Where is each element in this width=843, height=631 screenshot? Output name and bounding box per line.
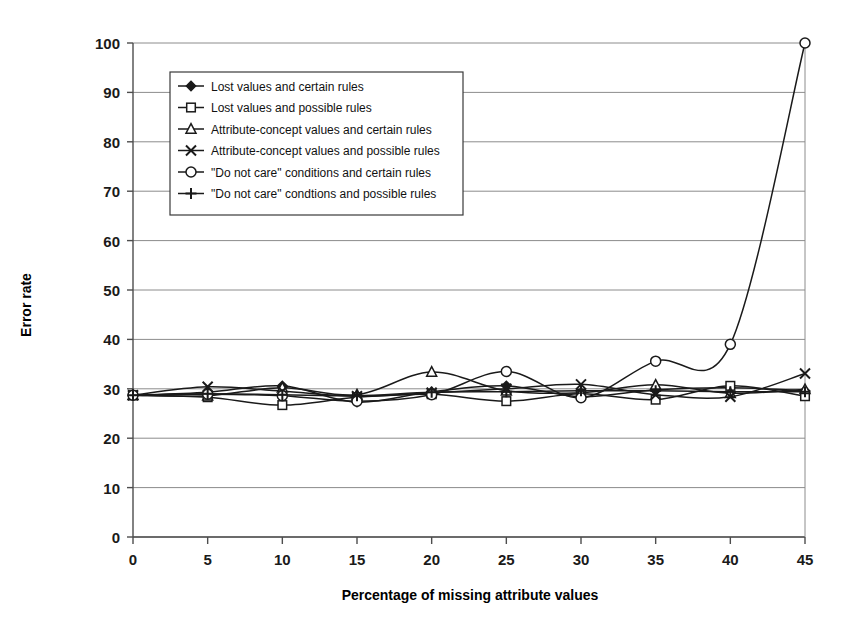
legend-label: Attribute-concept values and possible ru… — [211, 144, 440, 158]
legend-item-3[interactable]: Attribute-concept values and possible ru… — [178, 144, 440, 158]
y-axis-tick-label: 60 — [103, 233, 120, 250]
data-point-marker-open-square — [278, 401, 287, 410]
legend-item-4[interactable]: "Do not care" conditions and certain rul… — [178, 166, 431, 180]
y-axis-tick-label: 40 — [103, 331, 120, 348]
chart-figure: 0102030405060708090100 05101520253035404… — [0, 0, 843, 631]
y-axis-tick-label: 20 — [103, 430, 120, 447]
x-axis-tick-label: 0 — [129, 551, 137, 568]
legend-item-2[interactable]: Attribute-concept values and certain rul… — [178, 123, 432, 137]
y-axis-tick-label: 10 — [103, 480, 120, 497]
x-axis-tick-label: 40 — [722, 551, 739, 568]
legend-label: Attribute-concept values and certain rul… — [211, 123, 432, 137]
legend-label: "Do not care" conditions and certain rul… — [211, 166, 431, 180]
data-point-marker-open-circle — [651, 356, 661, 366]
x-axis-title: Percentage of missing attribute values — [342, 587, 599, 603]
y-axis-tick-label: 30 — [103, 381, 120, 398]
error-rate-line-chart: 0102030405060708090100 05101520253035404… — [0, 0, 843, 631]
x-axis-tick-label: 35 — [647, 551, 664, 568]
y-axis-title: Error rate — [18, 273, 34, 337]
x-axis-tick-label: 10 — [274, 551, 291, 568]
x-axis-tick-label: 15 — [349, 551, 366, 568]
legend-label: Lost values and certain rules — [211, 80, 364, 94]
legend-item-5[interactable]: "Do not care" condtions and possible rul… — [178, 187, 436, 201]
x-axis-tick-label: 45 — [797, 551, 814, 568]
y-axis-tick-label: 70 — [103, 183, 120, 200]
legend-label: Lost values and possible rules — [211, 101, 372, 115]
data-point-marker-open-square — [502, 397, 511, 406]
y-axis-tick-label: 90 — [103, 84, 120, 101]
legend-label: "Do not care" condtions and possible rul… — [211, 187, 436, 201]
data-point-marker-open-circle — [725, 339, 735, 349]
data-point-marker-open-circle — [800, 38, 810, 48]
x-axis-tick-label: 30 — [573, 551, 590, 568]
y-axis-tick-label: 0 — [112, 529, 120, 546]
x-axis-tick-label: 20 — [423, 551, 440, 568]
data-point-marker-open-square — [187, 103, 196, 112]
y-axis-tick-label: 50 — [103, 282, 120, 299]
y-axis-tick-label: 100 — [95, 35, 120, 52]
x-axis-tick-label: 5 — [203, 551, 211, 568]
data-point-marker-open-circle — [186, 167, 196, 177]
x-axis-tick-label: 25 — [498, 551, 515, 568]
chart-legend: Lost values and certain rulesLost values… — [170, 72, 463, 215]
data-point-marker-open-circle — [501, 367, 511, 377]
y-axis-tick-label: 80 — [103, 134, 120, 151]
